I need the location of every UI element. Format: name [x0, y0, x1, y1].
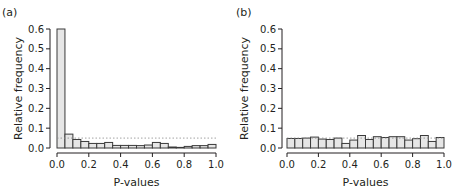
histogram-bar	[208, 144, 216, 148]
histogram-bar	[334, 138, 342, 148]
y-tick-label: 0.0	[260, 143, 276, 154]
y-tick-label: 0.4	[28, 63, 44, 74]
y-tick-label: 0.3	[260, 83, 276, 94]
histogram-bar	[192, 146, 200, 148]
x-tick-label: 0.8	[405, 159, 421, 170]
y-tick-label: 0.5	[28, 43, 44, 54]
x-tick-label: 0.0	[49, 159, 65, 170]
x-tick-label: 0.4	[113, 159, 129, 170]
y-axis-label: Relative frequency	[12, 36, 25, 140]
bars	[57, 29, 216, 148]
y-tick-label: 0.1	[28, 123, 44, 134]
histogram-bar	[160, 143, 168, 148]
histogram-bar	[105, 142, 113, 148]
y-tick-label: 0.4	[260, 63, 276, 74]
panel-label: (a)	[2, 6, 17, 19]
y-tick-label: 0.1	[260, 123, 276, 134]
x-axis-label: P-values	[343, 176, 389, 189]
histogram-bar	[436, 137, 444, 148]
x-axis: 0.00.20.40.60.81.0	[279, 153, 452, 170]
histogram-bar	[358, 136, 366, 148]
histogram-bar	[311, 137, 319, 148]
histogram-bar	[413, 139, 421, 148]
histogram-bar	[152, 142, 160, 148]
histogram-bar	[366, 139, 374, 148]
figure: (a)0.00.10.20.30.40.50.60.00.20.40.60.81…	[0, 0, 460, 196]
y-axis-label: Relative frequency	[238, 36, 251, 140]
histogram-bar	[176, 147, 184, 148]
histogram-panel-a: (a)0.00.10.20.30.40.50.60.00.20.40.60.81…	[2, 6, 224, 189]
histogram-bar	[184, 146, 192, 148]
x-tick-label: 0.2	[81, 159, 97, 170]
histogram-bar	[168, 147, 176, 148]
histogram-bar	[89, 143, 97, 148]
histogram-bar	[295, 138, 303, 148]
histogram-bar	[428, 141, 436, 148]
histogram-bar	[326, 139, 334, 148]
x-tick-label: 1.0	[436, 159, 452, 170]
x-axis: 0.00.20.40.60.81.0	[49, 153, 224, 170]
y-axis: 0.00.10.20.30.40.50.6	[28, 24, 50, 154]
histogram-bar	[405, 140, 413, 148]
histogram-bar	[420, 136, 428, 148]
histogram-bar	[200, 146, 208, 148]
histogram-bar	[303, 138, 311, 148]
x-axis-label: P-values	[114, 176, 160, 189]
y-axis: 0.00.10.20.30.40.50.6	[260, 24, 282, 154]
x-tick-label: 1.0	[208, 159, 224, 170]
y-tick-label: 0.3	[28, 83, 44, 94]
histogram-bar	[129, 145, 137, 148]
histogram-bar	[342, 143, 350, 148]
histogram-bar	[73, 139, 81, 148]
x-tick-label: 0.8	[176, 159, 192, 170]
histogram-bar	[97, 143, 105, 148]
x-tick-label: 0.6	[373, 159, 389, 170]
histogram-bar	[113, 145, 121, 148]
y-tick-label: 0.2	[28, 103, 44, 114]
histogram-bar	[121, 145, 129, 148]
x-tick-label: 0.6	[144, 159, 160, 170]
histogram-bar	[381, 137, 389, 148]
y-tick-label: 0.0	[28, 143, 44, 154]
histogram-panel-b: (b)0.00.10.20.30.40.50.60.00.20.40.60.81…	[236, 6, 452, 189]
histogram-bar	[318, 139, 326, 148]
y-tick-label: 0.6	[260, 24, 276, 35]
x-tick-label: 0.0	[279, 159, 295, 170]
bars	[287, 136, 444, 148]
y-tick-label: 0.5	[260, 43, 276, 54]
x-tick-label: 0.2	[310, 159, 326, 170]
panel-label: (b)	[236, 6, 252, 19]
histogram-bar	[81, 141, 89, 148]
histogram-bar	[287, 138, 295, 148]
y-tick-label: 0.6	[28, 24, 44, 35]
histogram-bar	[144, 145, 152, 148]
histogram-bar	[350, 140, 358, 148]
x-tick-label: 0.4	[342, 159, 358, 170]
histogram-bar	[137, 146, 145, 148]
histogram-bar	[65, 134, 73, 148]
histogram-bar	[57, 29, 65, 148]
y-tick-label: 0.2	[260, 103, 276, 114]
